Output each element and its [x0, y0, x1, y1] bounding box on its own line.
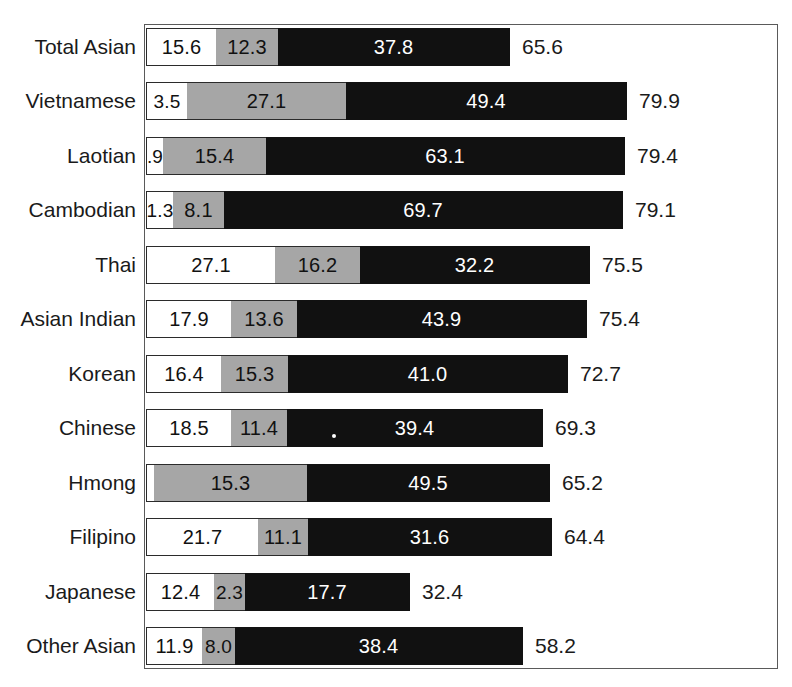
bar-segment-white: 3.5	[146, 82, 187, 120]
segment-value-label: 18.5	[169, 418, 209, 438]
category-label: Korean	[0, 352, 136, 396]
stacked-bar: 1.38.169.7	[146, 191, 623, 229]
stacked-bar: 21.711.131.6	[146, 518, 552, 556]
bar-segment-black: 63.1	[266, 137, 625, 175]
segment-value-label: 3.5	[153, 92, 180, 111]
segment-value-label: 1.3	[147, 201, 174, 220]
row-total-label: 79.1	[635, 191, 676, 229]
segment-value-label: 15.4	[195, 146, 235, 166]
bar-row: Asian Indian17.913.643.975.4	[0, 297, 792, 341]
category-label: Laotian	[0, 134, 136, 178]
bar-segment-black: 43.9	[297, 300, 587, 338]
segment-value-label: 15.3	[211, 473, 251, 493]
segment-value-label: 49.4	[466, 91, 506, 111]
stacked-bar: 18.511.439.4	[146, 409, 543, 447]
category-label: Chinese	[0, 406, 136, 450]
bar-segment-black: 32.2	[360, 246, 590, 284]
segment-value-label: 32.2	[455, 255, 495, 275]
segment-value-label: 11.9	[155, 636, 193, 656]
row-total-label: 72.7	[580, 355, 621, 393]
row-total-label: 75.4	[599, 300, 640, 338]
bar-segment-gray: 8.0	[202, 627, 235, 665]
bar-segment-white: 1.3	[146, 191, 173, 229]
category-label: Filipino	[0, 515, 136, 559]
bar-segment-white: 16.4	[146, 355, 221, 393]
category-label: Hmong	[0, 461, 136, 505]
row-total-label: 64.4	[564, 518, 605, 556]
bar-segment-gray: 13.6	[231, 300, 297, 338]
segment-value-label: 2.3	[216, 583, 243, 602]
bar-segment-white: 11.9	[146, 627, 202, 665]
bar-segment-gray: 11.1	[258, 518, 308, 556]
stacked-bar: 3.527.149.4	[146, 82, 627, 120]
category-label: Total Asian	[0, 25, 136, 69]
bar-row: Japanese12.42.317.732.4	[0, 570, 792, 614]
bar-segment-gray: 8.1	[173, 191, 224, 229]
bar-segment-gray: 11.4	[231, 409, 287, 447]
segment-value-label: 31.6	[410, 527, 450, 547]
bar-row: Laotian.915.463.179.4	[0, 134, 792, 178]
segment-value-label: 8.1	[184, 200, 212, 220]
stacked-bar: 12.42.317.7	[146, 573, 410, 611]
bar-row: Thai27.116.232.275.5	[0, 243, 792, 287]
bar-segment-white	[146, 464, 154, 502]
row-total-label: 58.2	[535, 627, 576, 665]
segment-value-label: 27.1	[191, 255, 231, 275]
category-label: Vietnamese	[0, 79, 136, 123]
segment-value-label: 15.6	[162, 37, 202, 57]
segment-value-label: 8.0	[205, 637, 232, 656]
row-total-label: 79.9	[639, 82, 680, 120]
bar-segment-gray: 16.2	[275, 246, 360, 284]
stacked-bar: 17.913.643.9	[146, 300, 587, 338]
bar-segment-white: .9	[146, 137, 163, 175]
category-label: Other Asian	[0, 624, 136, 668]
bar-segment-gray: 15.3	[154, 464, 307, 502]
segment-value-label: 39.4	[395, 418, 435, 438]
segment-value-label: 27.1	[247, 91, 287, 111]
row-total-label: 75.5	[602, 246, 643, 284]
bar-segment-white: 18.5	[146, 409, 231, 447]
bar-segment-black: 49.5	[307, 464, 550, 502]
segment-value-label: .9	[147, 147, 163, 166]
bar-segment-gray: 15.4	[163, 137, 266, 175]
bar-row: Cambodian1.38.169.779.1	[0, 188, 792, 232]
bar-segment-black: 49.4	[346, 82, 627, 120]
bar-segment-white: 17.9	[146, 300, 231, 338]
stacked-bar-chart: Total Asian15.612.337.865.6Vietnamese3.5…	[0, 0, 792, 687]
segment-value-label: 21.7	[183, 527, 223, 547]
segment-value-label: 37.8	[374, 37, 414, 57]
segment-value-label: 11.4	[240, 418, 278, 438]
segment-value-label: 13.6	[244, 309, 284, 329]
stacked-bar: .915.463.1	[146, 137, 625, 175]
bar-row: Total Asian15.612.337.865.6	[0, 25, 792, 69]
segment-value-label: 41.0	[408, 364, 448, 384]
category-label: Asian Indian	[0, 297, 136, 341]
bar-segment-black: 31.6	[308, 518, 552, 556]
bar-segment-white: 15.6	[146, 28, 216, 66]
bar-segment-black: 69.7	[224, 191, 623, 229]
bar-row: Korean16.415.341.072.7	[0, 352, 792, 396]
segment-value-label: 69.7	[403, 200, 443, 220]
bar-row: Other Asian11.98.038.458.2	[0, 624, 792, 668]
bar-segment-black: 37.8	[278, 28, 510, 66]
scan-artifact-speck	[332, 434, 336, 438]
category-label: Thai	[0, 243, 136, 287]
segment-value-label: 63.1	[425, 146, 465, 166]
segment-value-label: 15.3	[235, 364, 275, 384]
row-total-label: 65.2	[562, 464, 603, 502]
bar-segment-white: 12.4	[146, 573, 214, 611]
row-total-label: 69.3	[555, 409, 596, 447]
segment-value-label: 16.2	[298, 255, 338, 275]
row-total-label: 65.6	[522, 28, 563, 66]
bar-row: Chinese18.511.439.469.3	[0, 406, 792, 450]
segment-value-label: 16.4	[164, 364, 204, 384]
bar-segment-gray: 27.1	[187, 82, 346, 120]
bar-segment-black: 38.4	[235, 627, 523, 665]
bar-row: Vietnamese3.527.149.479.9	[0, 79, 792, 123]
bar-segment-gray: 12.3	[216, 28, 278, 66]
bar-segment-white: 27.1	[146, 246, 275, 284]
segment-value-label: 17.7	[307, 582, 347, 602]
bar-segment-white: 21.7	[146, 518, 258, 556]
stacked-bar: 15.612.337.8	[146, 28, 510, 66]
stacked-bar: 11.98.038.4	[146, 627, 523, 665]
